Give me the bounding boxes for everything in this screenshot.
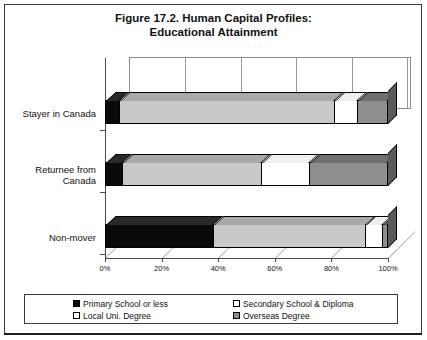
bar-segment-local <box>261 162 309 186</box>
x-axis-tick-label: 0% <box>85 264 125 273</box>
x-axis-tick-label: 60% <box>255 264 295 273</box>
bar-segment-top <box>120 92 344 101</box>
bar-segment-top <box>214 216 376 225</box>
bar-segment-overseas <box>309 162 388 186</box>
y-axis-category-label: Returnee from Canada <box>0 164 96 186</box>
legend-item-label: Overseas Degree <box>243 311 310 321</box>
chart-plot-area: 0%20%40%60%80%100% Stayer in CanadaRetur… <box>8 52 412 278</box>
title-line-1: Figure 17.2. Human Capital Profiles: <box>115 12 312 24</box>
legend-column-left: Primary School or lessLocal Uni. Degree <box>73 298 168 322</box>
y-axis-tick <box>100 130 105 131</box>
page-title: Figure 17.2. Human Capital Profiles: Edu… <box>0 11 427 39</box>
x-axis-tick-label: 100% <box>368 264 408 273</box>
legend-item[interactable]: Secondary School & Diploma <box>233 298 354 309</box>
figure-container: Figure 17.2. Human Capital Profiles: Edu… <box>0 0 427 340</box>
x-axis-line <box>105 258 388 259</box>
bar-segment-secondary <box>122 162 261 186</box>
legend-swatch-icon <box>73 300 80 307</box>
x-axis-tick <box>388 258 389 262</box>
bar-segment-primary <box>105 100 119 124</box>
legend-item-label: Local Uni. Degree <box>83 311 151 321</box>
wall-gridline <box>407 58 408 108</box>
bottom-rule <box>4 333 422 335</box>
y-axis-category-label: Non-mover <box>0 232 96 243</box>
bar-segment-top <box>123 154 271 163</box>
legend-item-label: Secondary School & Diploma <box>243 299 354 309</box>
bar-segment-top <box>106 216 223 225</box>
x-axis-tick-label: 80% <box>311 264 351 273</box>
bar-segment-primary <box>105 224 213 248</box>
legend-item[interactable]: Primary School or less <box>73 298 168 309</box>
legend-swatch-icon <box>233 312 240 319</box>
x-axis-tick <box>218 258 219 262</box>
chart-legend: Primary School or lessLocal Uni. Degree … <box>24 294 398 324</box>
legend-swatch-icon <box>233 300 240 307</box>
bar-segment-primary <box>105 162 122 186</box>
title-line-2: Educational Attainment <box>0 25 427 39</box>
y-axis-tick <box>100 254 105 255</box>
legend-item-label: Primary School or less <box>83 299 168 309</box>
bar-segment-top <box>310 154 397 163</box>
y-axis-category-label: Stayer in Canada <box>0 108 96 119</box>
bar-segment-local <box>365 224 382 248</box>
x-axis-tick-label: 20% <box>142 264 182 273</box>
x-axis-tick <box>275 258 276 262</box>
legend-column-right: Secondary School & DiplomaOverseas Degre… <box>233 298 354 322</box>
x-axis-tick <box>331 258 332 262</box>
x-axis-tick-label: 40% <box>198 264 238 273</box>
x-axis-tick <box>105 258 106 262</box>
legend-swatch-icon <box>73 312 80 319</box>
bar-segment-local <box>334 100 357 124</box>
legend-item[interactable]: Local Uni. Degree <box>73 310 168 321</box>
bar-segment-secondary <box>119 100 334 124</box>
y-axis-tick <box>100 192 105 193</box>
bar-segment-secondary <box>213 224 366 248</box>
x-axis-tick <box>162 258 163 262</box>
bar-segment-overseas <box>357 100 388 124</box>
legend-item[interactable]: Overseas Degree <box>233 310 354 321</box>
